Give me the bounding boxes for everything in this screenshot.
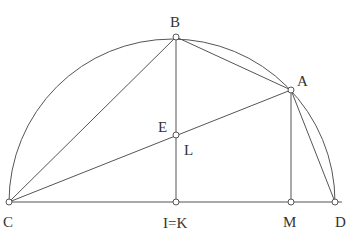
segment-CB bbox=[9, 37, 176, 202]
label-L: L bbox=[184, 142, 193, 158]
label-E: E bbox=[158, 119, 167, 135]
label-IK: I=K bbox=[163, 215, 187, 231]
segment-BA bbox=[176, 37, 291, 90]
label-D: D bbox=[335, 214, 346, 230]
point-EL bbox=[173, 132, 179, 138]
label-M: M bbox=[283, 214, 296, 230]
point-A bbox=[288, 87, 294, 93]
geometry-diagram: B A E L C I=K M D bbox=[0, 0, 356, 248]
semicircle-arc bbox=[9, 39, 335, 202]
point-B bbox=[173, 34, 179, 40]
point-D bbox=[332, 199, 338, 205]
point-IK bbox=[173, 199, 179, 205]
label-A: A bbox=[297, 73, 308, 89]
point-C bbox=[6, 199, 12, 205]
label-B: B bbox=[170, 14, 180, 30]
segment-AD bbox=[291, 90, 335, 202]
label-C: C bbox=[3, 214, 13, 230]
point-M bbox=[288, 199, 294, 205]
segment-CA bbox=[9, 90, 291, 202]
